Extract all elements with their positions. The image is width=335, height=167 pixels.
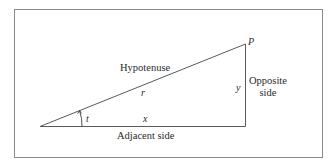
- adjacent-side-label: Adjacent side: [117, 131, 174, 142]
- angle-arc-icon: [78, 111, 82, 127]
- y-label: y: [236, 83, 240, 93]
- hypotenuse-label: Hypotenuse: [120, 63, 170, 74]
- opposite-side-label: Opposite side: [248, 75, 288, 99]
- point-p-label: P: [248, 37, 254, 47]
- opposite-side-label-line1: Opposite: [248, 75, 288, 87]
- r-label: r: [141, 88, 145, 98]
- opposite-side-label-line2: side: [248, 87, 288, 99]
- angle-t-label: t: [86, 114, 89, 124]
- x-label: x: [143, 114, 147, 124]
